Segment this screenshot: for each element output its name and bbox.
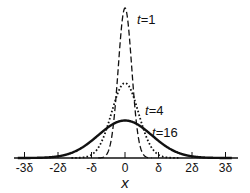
- curve-label-t-16: t=16: [152, 125, 178, 140]
- gaussian-spreading-chart: -3δ-2δ-δ0δ2δ3δ t=1t=4t=16 x: [0, 0, 250, 193]
- x-tick-label: δ: [155, 161, 162, 175]
- x-axis-title: x: [120, 174, 129, 191]
- curve-label-t-4: t=4: [145, 103, 163, 118]
- x-tick-label: -δ: [86, 161, 97, 175]
- curve-label-t-1: t=1: [137, 12, 155, 27]
- x-tick-label: -2δ: [49, 161, 67, 175]
- x-tick-label: 3δ: [219, 161, 233, 175]
- x-tick-label: 2δ: [185, 161, 199, 175]
- x-tick-label: -3δ: [16, 161, 34, 175]
- x-tick-label: 0: [122, 161, 129, 175]
- x-axis-ticks: -3δ-2δ-δ0δ2δ3δ: [16, 152, 233, 175]
- curves: [18, 8, 232, 158]
- curve-t-1: [98, 8, 152, 158]
- curve-labels: t=1t=4t=16: [137, 12, 178, 140]
